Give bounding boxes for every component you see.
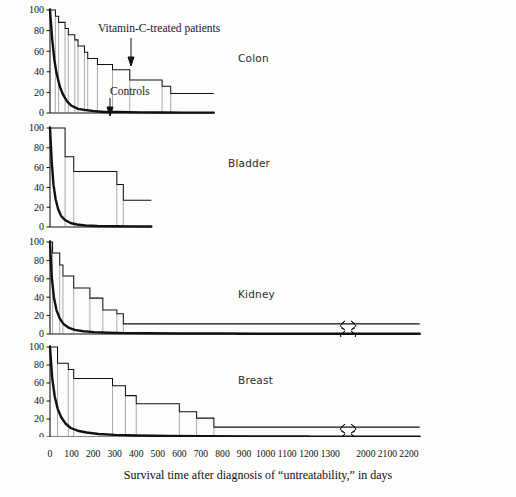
y-tick-label: 40 [34,182,44,193]
panel-label-colon: Colon [238,52,269,64]
axis-break-symbol [340,424,356,437]
x-axis-label: Survival time after diagnosis of “untrea… [0,468,516,483]
y-tick-label: 40 [34,292,44,303]
y-tick-label: 20 [34,413,44,424]
panel-breast: 020406080100 [0,337,516,437]
x-tick-label: 0 [48,448,53,459]
series-vitamin-c-step [50,242,420,324]
y-tick-label: 100 [29,236,44,247]
series-controls-curve [50,347,420,437]
y-tick-label: 60 [34,46,44,57]
x-tick-label: 300 [107,448,122,459]
y-tick-label: 60 [34,273,44,284]
x-tick-label: 400 [129,448,144,459]
y-tick-label: 20 [34,310,44,321]
x-tick-label: 1100 [278,448,297,459]
y-tick-label: 40 [34,395,44,406]
y-tick-label: 0 [39,431,44,437]
panel-kidney: 020406080100 [0,232,516,337]
x-tick-label: 2000 [356,448,375,459]
y-tick-label: 40 [34,66,44,77]
panel-bladder: 020406080100 [0,118,516,232]
x-tick-label: 100 [64,448,79,459]
x-tick-label: 1000 [256,448,275,459]
y-tick-label: 80 [34,255,44,266]
y-tick-label: 100 [29,4,44,15]
panel-label-kidney: Kidney [238,288,275,300]
y-tick-label: 80 [34,142,44,153]
y-tick-label: 100 [29,341,44,352]
series-controls-curve [50,242,420,334]
panel-label-breast: Breast [238,374,273,386]
y-tick-label: 0 [39,221,44,232]
x-tick-label: 900 [237,448,252,459]
y-tick-label: 80 [34,25,44,36]
figure-root: 020406080100 020406080100 020406080100 0… [0,0,516,497]
x-tick-label: 2200 [399,448,418,459]
x-tick-label: 800 [215,448,230,459]
x-tick-label: 1200 [299,448,318,459]
y-tick-label: 80 [34,359,44,370]
x-tick-label: 700 [194,448,209,459]
x-tick-label: 500 [151,448,166,459]
y-tick-label: 100 [29,122,44,133]
panel-label-bladder: Bladder [228,157,270,169]
x-tick-label: 1300 [321,448,340,459]
y-tick-label: 60 [34,162,44,173]
x-tick-label: 2100 [378,448,397,459]
x-tick-label: 200 [86,448,101,459]
annotation-vitamin-c: Vitamin-C-treated patients [98,22,220,34]
y-tick-label: 60 [34,377,44,388]
y-tick-label: 20 [34,202,44,213]
y-tick-label: 0 [39,328,44,337]
annotation-controls: Controls [110,85,150,97]
x-tick-label: 600 [172,448,187,459]
x-tick-labels: 0100200300400500600700800900100011001200… [0,447,516,467]
y-tick-label: 20 [34,87,44,98]
y-tick-label: 0 [39,107,44,118]
series-vitamin-c-step [50,347,420,427]
